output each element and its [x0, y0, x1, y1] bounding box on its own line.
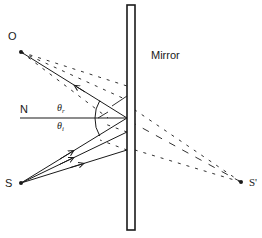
theta-r-subscript: r: [62, 107, 65, 115]
incident-dashed-extension-2: [100, 140, 127, 150]
observer-dashed-ray-2: [21, 52, 127, 86]
incident-arrow-1: [60, 152, 72, 159]
source-point: [19, 181, 23, 185]
image-dashed-ray-1: [135, 110, 241, 182]
observer-point: [19, 50, 23, 54]
reflected-ray-arrow: [76, 86, 85, 92]
label-normal: N: [20, 104, 28, 115]
image-dashed-ray-2: [135, 124, 241, 182]
angle-arc-reflection: [95, 101, 100, 118]
image-point: [239, 180, 243, 184]
reflected-segment-2: [98, 112, 108, 118]
incident-ray-1: [21, 118, 127, 183]
label-theta-r: θr: [57, 103, 65, 115]
incident-arrow-3: [70, 164, 82, 168]
observer-dashed-ray-1: [21, 52, 127, 100]
label-theta-i: θi: [57, 121, 64, 133]
reflected-segment-1: [112, 96, 127, 106]
mirror: [127, 5, 135, 230]
theta-i-subscript: i: [62, 125, 64, 133]
label-observer: O: [8, 31, 17, 42]
angle-arc-incidence: [95, 118, 100, 136]
label-image: S': [249, 177, 257, 188]
incident-arrow-2: [60, 158, 72, 164]
label-source: S: [5, 178, 12, 189]
label-mirror: Mirror: [151, 50, 180, 61]
reflection-diagram: [0, 0, 262, 238]
reflected-ray: [21, 52, 127, 118]
incident-ray-2: [21, 132, 127, 183]
image-dashed-ray-3: [135, 150, 241, 182]
